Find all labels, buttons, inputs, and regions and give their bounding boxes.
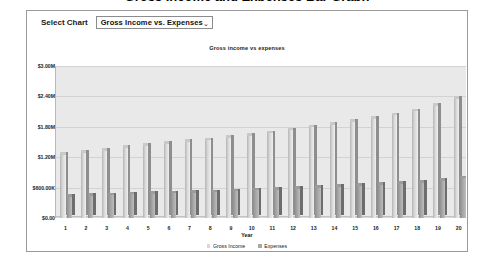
bar-face	[81, 153, 86, 218]
bar-expenses	[88, 196, 93, 218]
x-axis-tick-label: 20	[456, 225, 462, 231]
select-chart-dropdown[interactable]: Gross Income vs. Expenses ⌄	[96, 16, 213, 29]
bar-side	[72, 194, 75, 215]
bar-face	[108, 195, 113, 218]
bar-face	[123, 148, 128, 218]
bar-gross-income	[247, 136, 252, 218]
plot-inner	[56, 66, 466, 218]
bar-face	[171, 193, 176, 218]
bar-gross-income	[60, 155, 65, 218]
bar-expenses	[191, 193, 196, 218]
x-axis-tick-label: 11	[270, 225, 275, 231]
bar-face	[212, 192, 217, 218]
bar-side	[321, 185, 324, 215]
x-axis-tick-label: 6	[167, 225, 170, 231]
bar-gross-income	[392, 115, 397, 218]
bar-gross-income	[185, 142, 190, 218]
bar-side	[176, 191, 179, 216]
bar-face	[288, 130, 293, 218]
bar-gross-income	[371, 119, 376, 218]
bar-gross-income	[143, 146, 148, 218]
bar-face	[253, 190, 258, 218]
gridline	[56, 127, 466, 128]
bar-face	[274, 190, 279, 218]
bar-face	[315, 188, 320, 218]
x-axis-title: Year	[28, 232, 466, 238]
bar-face	[336, 187, 341, 218]
bar-expenses	[295, 189, 300, 218]
bar-face	[226, 138, 231, 218]
y-axis-tick-label: $1.20M	[38, 154, 55, 160]
bar-side	[279, 187, 282, 215]
legend-item[interactable]: Expenses	[258, 243, 287, 249]
bar-gross-income	[123, 148, 128, 218]
bar-face	[129, 194, 134, 218]
bar-face	[67, 197, 72, 218]
y-axis-tick-label: $0.00	[42, 215, 55, 221]
bar-expenses	[274, 190, 279, 218]
bar-expenses	[253, 190, 258, 218]
bar-side	[217, 190, 220, 216]
x-axis-tick-label: 18	[414, 225, 420, 231]
gridline	[56, 96, 466, 97]
bar-gross-income	[81, 153, 86, 218]
bar-face	[88, 196, 93, 218]
bar-face	[398, 184, 403, 218]
y-axis-tick-label: $600.00K	[33, 185, 56, 191]
bar-face	[164, 144, 169, 218]
bar-face	[371, 119, 376, 218]
chart-title: Gross income vs expenses	[28, 45, 466, 51]
x-axis-tick-label: 1	[64, 225, 67, 231]
bar-expenses	[419, 183, 424, 218]
x-axis-tick-label: 4	[126, 225, 129, 231]
bar-gross-income	[267, 133, 272, 218]
x-axis-tick-label: 2	[85, 225, 88, 231]
bar-gross-income	[454, 99, 459, 218]
bar-face	[185, 142, 190, 218]
bar-side	[114, 193, 117, 216]
x-axis-tick-label: 10	[249, 225, 255, 231]
y-axis-tick-label: $1.80M	[38, 124, 55, 130]
chevron-down-icon: ⌄	[203, 19, 209, 28]
bar-gross-income	[309, 127, 314, 218]
bar-expenses	[378, 185, 383, 218]
bar-face	[309, 127, 314, 218]
legend-swatch-icon	[207, 244, 211, 248]
bar-gross-income	[102, 151, 107, 218]
bar-face	[267, 133, 272, 218]
x-axis-tick-label: 19	[435, 225, 441, 231]
legend-item[interactable]: Gross Income	[207, 243, 245, 249]
bar-face	[350, 122, 355, 218]
screen-root: Gross Income and Expenses Bar Graph Sele…	[0, 0, 494, 261]
bar-face	[233, 191, 238, 218]
bar-face	[378, 185, 383, 218]
x-axis-tick-label: 5	[147, 225, 150, 231]
legend-label: Gross Income	[213, 243, 245, 249]
x-axis-tick-label: 3	[105, 225, 108, 231]
bar-face	[143, 146, 148, 218]
bar-expenses	[315, 188, 320, 218]
bar-expenses	[67, 197, 72, 218]
bar-side	[134, 192, 137, 216]
bar-side	[155, 191, 158, 215]
plot-area	[55, 66, 466, 218]
bar-side	[403, 181, 406, 215]
bar-side	[341, 184, 344, 215]
bar-face	[191, 193, 196, 218]
bar-face	[419, 183, 424, 218]
y-axis-tick-label: $2.40M	[38, 93, 55, 99]
x-axis-tick-label: 14	[332, 225, 338, 231]
bar-face	[440, 181, 445, 218]
bar-gross-income	[205, 140, 210, 218]
bar-side	[93, 193, 96, 215]
bar-face	[205, 140, 210, 218]
x-axis-tick-label: 15	[352, 225, 358, 231]
bar-expenses	[398, 184, 403, 218]
legend-label: Expenses	[264, 243, 287, 249]
bar-side	[259, 188, 262, 216]
gridline	[56, 66, 466, 67]
select-chart-row: Select Chart Gross Income vs. Expenses ⌄	[41, 16, 213, 29]
bar-expenses	[460, 178, 465, 218]
bar-side	[300, 186, 303, 215]
bar-face	[247, 136, 252, 218]
